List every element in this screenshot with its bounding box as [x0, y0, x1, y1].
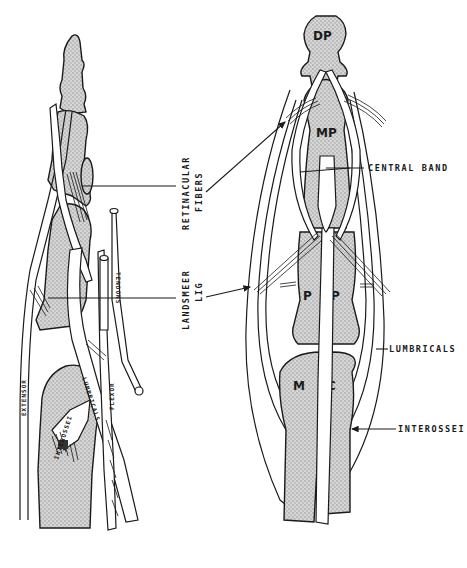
retinacular-label-line2: FIBERS: [194, 172, 204, 212]
landsmeer-label-line2: LIG: [194, 282, 204, 302]
landsmeer-label-line1: LANDSMEER: [181, 270, 191, 330]
tendon-cut-long-end: [110, 209, 118, 214]
proximal-phalanx-dorsal-right: [332, 232, 359, 344]
retinacular-label-line1: RETINACULAR: [181, 156, 191, 230]
dp-label: DP: [313, 29, 332, 43]
tendon-cut-long-tip: [135, 387, 143, 395]
left-lateral-view: TENDONS EXTENSOR LUMBRICALS INTEROSSEI F…: [20, 35, 143, 530]
lumbricals-label-right: LUMBRICALS: [389, 344, 456, 354]
extensor-label: EXTENSOR: [20, 379, 27, 416]
m-label: M: [293, 379, 305, 393]
landsmeer-leader-right: [206, 287, 250, 297]
finger-extensor-mechanism-figure: TENDONS EXTENSOR LUMBRICALS INTEROSSEI F…: [0, 0, 467, 568]
tendon-cut-short: [100, 258, 108, 330]
central-band-label: CENTRAL BAND: [368, 163, 449, 173]
right-dorsal-view: DP MP P P M C CENTRAL BAND LUMBRICALS: [246, 16, 465, 524]
tendon-cut-short-end: [100, 256, 108, 261]
flexor-label: FLEXOR: [108, 382, 115, 410]
metacarpal-dorsal-left: [280, 352, 322, 522]
interossei-label-right: INTEROSSEI: [398, 424, 465, 434]
p-label-left: P: [303, 289, 312, 303]
proximal-phalanx-dorsal-left: [293, 232, 322, 344]
pip-condyle: [81, 158, 93, 194]
distal-phalanx-lateral: [60, 35, 86, 114]
dorsal-hood-outer-left: [246, 90, 290, 504]
mp-label: MP: [316, 126, 337, 140]
tendons-label: TENDONS: [115, 272, 122, 304]
